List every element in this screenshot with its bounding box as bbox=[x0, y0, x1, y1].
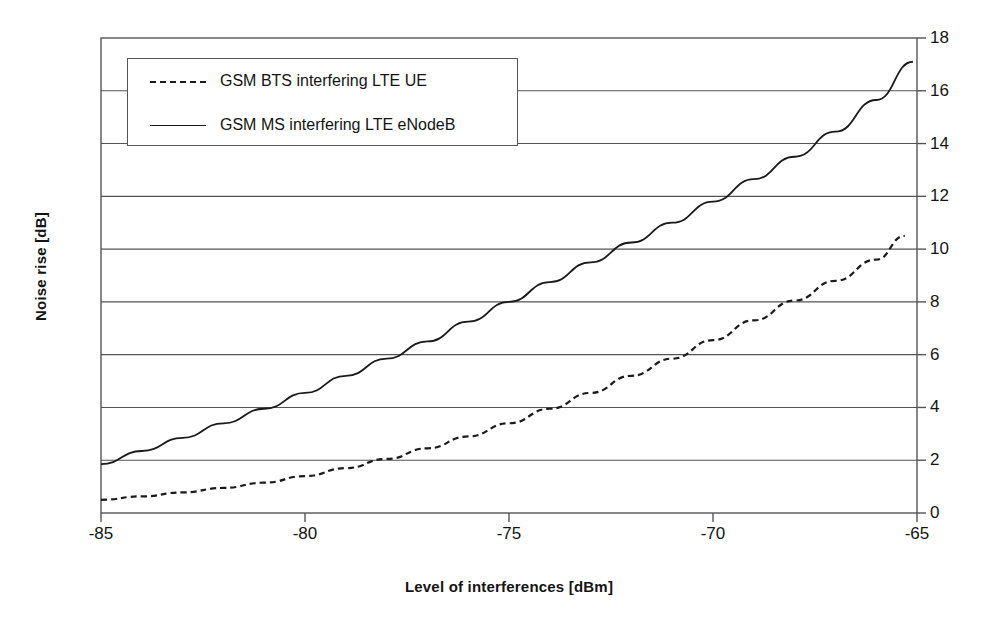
y-tick-label: 0 bbox=[930, 503, 976, 523]
y-tick-label: 8 bbox=[930, 292, 976, 312]
y-axis-ticks bbox=[917, 38, 926, 513]
legend-item: GSM BTS interfering LTE UE bbox=[128, 59, 517, 103]
x-tick-label: -75 bbox=[469, 524, 549, 544]
x-axis-ticks bbox=[101, 513, 917, 522]
y-tick-label: 6 bbox=[930, 345, 976, 365]
legend-label: GSM BTS interfering LTE UE bbox=[220, 72, 427, 90]
legend-item: GSM MS interfering LTE eNodeB bbox=[128, 103, 517, 147]
y-tick-label: 4 bbox=[930, 397, 976, 417]
y-tick-label: 16 bbox=[930, 81, 976, 101]
x-tick-label: -80 bbox=[265, 524, 345, 544]
y-tick-label: 12 bbox=[930, 186, 976, 206]
x-tick-label: -85 bbox=[61, 524, 141, 544]
y-tick-label: 10 bbox=[930, 239, 976, 259]
y-tick-label: 18 bbox=[930, 28, 976, 48]
y-tick-label: 14 bbox=[930, 134, 976, 154]
legend-label: GSM MS interfering LTE eNodeB bbox=[220, 116, 455, 134]
legend-line-sample-dashed-icon bbox=[150, 74, 206, 88]
legend-line-sample-solid-icon bbox=[150, 118, 206, 132]
y-tick-label: 2 bbox=[930, 450, 976, 470]
chart-figure: Noise rise [dB] Level of interferences [… bbox=[0, 0, 1007, 619]
legend: GSM BTS interfering LTE UE GSM MS interf… bbox=[127, 58, 518, 146]
x-tick-label: -70 bbox=[673, 524, 753, 544]
x-tick-label: -65 bbox=[877, 524, 957, 544]
